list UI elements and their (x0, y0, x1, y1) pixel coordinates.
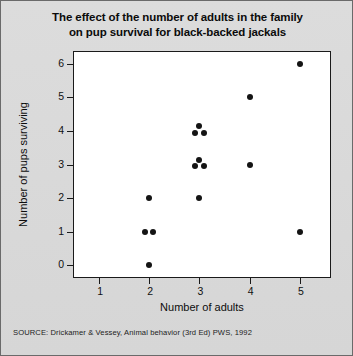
data-point (201, 130, 207, 136)
data-point (247, 162, 253, 168)
y-axis-tick: 0 (67, 265, 74, 266)
data-point (150, 229, 156, 235)
y-axis-tick: 3 (67, 165, 74, 166)
x-axis-tick: 4 (250, 277, 251, 284)
data-point (196, 123, 202, 129)
data-point (146, 262, 152, 268)
source-note: SOURCE: Drickamer & Vessey, Animal behav… (13, 328, 252, 337)
data-point (196, 195, 202, 201)
y-axis-tick-label: 4 (58, 124, 64, 136)
y-axis-tick: 1 (67, 232, 74, 233)
chart-title-line-1: The effect of the number of adults in th… (1, 10, 353, 25)
data-point (247, 94, 253, 100)
plot-area (74, 52, 330, 277)
data-point (297, 229, 303, 235)
x-axis-tick: 1 (99, 277, 100, 284)
chart-title: The effect of the number of adults in th… (1, 10, 353, 40)
x-axis-tick-label: 1 (90, 285, 110, 297)
x-axis-tick: 5 (300, 277, 301, 284)
y-axis-tick: 4 (67, 131, 74, 132)
x-axis-tick: 2 (149, 277, 150, 284)
y-axis-label: Number of pups surviving (15, 51, 31, 278)
data-point (196, 157, 202, 163)
y-axis-tick: 2 (67, 198, 74, 199)
data-point (142, 229, 148, 235)
x-axis-label: Number of adults (73, 301, 331, 313)
data-point (201, 163, 207, 169)
x-axis-tick-label: 4 (241, 285, 261, 297)
data-point (297, 61, 303, 67)
y-axis-tick-label: 2 (58, 191, 64, 203)
data-point (192, 163, 198, 169)
chart-title-line-2: on pup survival for black-backed jackals (1, 25, 353, 40)
data-point (192, 130, 198, 136)
x-axis-tick-label: 2 (140, 285, 160, 297)
y-axis-tick-label: 1 (58, 225, 64, 237)
y-axis-tick: 5 (67, 97, 74, 98)
data-point (146, 195, 152, 201)
y-axis-tick-label: 5 (58, 90, 64, 102)
y-axis-tick: 6 (67, 64, 74, 65)
chart-figure: The effect of the number of adults in th… (0, 0, 353, 356)
plot-frame: 012345612345 (73, 51, 331, 278)
y-axis-tick-label: 6 (58, 57, 64, 69)
y-axis-tick-label: 3 (58, 158, 64, 170)
x-axis-tick: 3 (199, 277, 200, 284)
x-axis-tick-label: 5 (291, 285, 311, 297)
y-axis-tick-label: 0 (58, 258, 64, 270)
x-axis-tick-label: 3 (190, 285, 210, 297)
